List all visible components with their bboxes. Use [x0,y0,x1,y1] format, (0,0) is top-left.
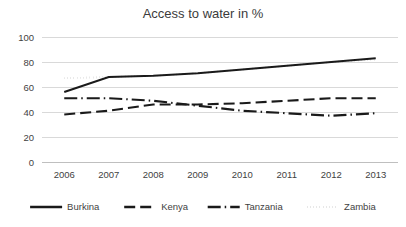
legend-label-kenya: Kenya [161,201,189,212]
y-axis-tick-label: 60 [23,82,34,93]
x-axis-tick-label: 2011 [277,169,297,180]
y-axis-tick-label: 100 [18,32,34,43]
x-axis-tick-label: 2012 [321,169,342,180]
legend-label-tanzania: Tanzania [245,201,284,212]
x-axis-tick-label: 2007 [98,169,119,180]
legend-label-zambia: Zambia [344,201,376,212]
chart-background [0,0,406,227]
legend-label-burkina: Burkina [67,201,100,212]
x-axis-tick-label: 2008 [143,169,164,180]
y-axis-tick-label: 0 [29,157,34,168]
x-axis-tick-label: 2013 [365,169,386,180]
y-axis-tick-label: 20 [23,132,34,143]
chart-figure: Access to water in % 020406080100 200620… [0,0,406,227]
y-axis-tick-label: 80 [23,57,34,68]
y-axis-tick-label: 40 [23,107,34,118]
x-axis-tick-label: 2006 [54,169,75,180]
chart-title: Access to water in % [143,6,264,21]
x-axis-tick-label: 2010 [232,169,253,180]
x-axis-tick-label: 2009 [187,169,208,180]
